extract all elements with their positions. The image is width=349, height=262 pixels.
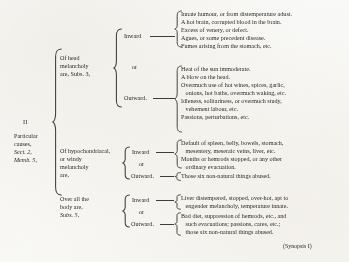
root-label-line-2: causes, xyxy=(14,141,32,149)
branch-body-inward-items-brace xyxy=(174,194,181,210)
branch-body-label-line-3: Subs. 5, xyxy=(60,212,79,220)
branch-body-outward-item-2: such evacuations; passions, cares, etc.; xyxy=(181,221,280,229)
branch-body-outward-item-3: those six non-natural things abused. xyxy=(181,229,273,237)
branch-body-outward-items-brace xyxy=(174,212,181,236)
branch-hypo-inward-item-2: mesentery, meseraic veins, liver, etc. xyxy=(181,148,275,156)
branch-head-inward-item-4: Agues, or some precedent disease. xyxy=(181,35,265,43)
source-note: (Synopsis I) xyxy=(283,243,312,249)
root-label-line-4: Memb. 5, xyxy=(14,157,37,165)
branch-body-brace xyxy=(122,194,130,228)
branch-head-inward-label: Inward xyxy=(124,33,141,41)
branch-head-label-line-1: Of head xyxy=(60,55,80,63)
branch-head-outward-connector xyxy=(153,98,175,99)
root-label-line-1: Particular xyxy=(14,133,38,141)
branch-head-brace xyxy=(113,28,122,108)
branch-head-outward-item-5: Idleness, solitariness, or overmuch stud… xyxy=(181,98,282,106)
branch-body-inward-label: Inward xyxy=(132,197,149,205)
branch-hypo-label-line-2: or windy xyxy=(60,156,82,164)
branch-hypo-inward-item-3: Months or hemrods stopped, or any other xyxy=(181,156,282,164)
branch-body-inward-item-1: Liver distempered, stopped, over-hot, ap… xyxy=(181,195,288,203)
branch-hypo-inward-label: Inward xyxy=(132,149,149,157)
branch-body-outward-connector xyxy=(160,224,174,225)
branch-hypo-outward-connector xyxy=(160,176,174,177)
branch-head-outward-item-7: Passions, perturbations, etc. xyxy=(181,114,249,122)
branch-hypo-inward-item-4: ordinary evacuation. xyxy=(181,164,236,172)
branch-hypo-outward-item-1: Those six non-natural things abused. xyxy=(181,173,271,181)
branch-head-outward-item-6: vehement labour, etc. xyxy=(181,106,238,114)
branch-hypo-label-line-4: are, xyxy=(60,172,69,180)
branch-head-inward-connector xyxy=(150,36,175,37)
branch-hypo-brace xyxy=(122,146,130,180)
branch-head-outward-item-1: Heat of the sun immoderate. xyxy=(181,66,250,74)
branch-head-outward-item-2: A blow on the head. xyxy=(181,74,230,82)
branch-body-label-line-2: body are, xyxy=(60,204,83,212)
branch-head-outward-item-4: onions, hot baths, overmuch waking, etc. xyxy=(181,90,286,98)
branch-head-label-line-3: are, Subs. 3, xyxy=(60,71,90,79)
root-label-line-3: Sect. 2, xyxy=(14,149,32,157)
branch-body-inward-connector xyxy=(156,200,174,201)
branch-body-label-line-1: Over all the xyxy=(60,196,89,204)
branch-head-label-line-2: melancholy xyxy=(60,63,89,71)
branch-head-inward-item-2: A hot brain, corrupted blood in the brai… xyxy=(181,19,281,27)
branch-head-inward-item-3: Excess of venery, or defect. xyxy=(181,27,249,35)
branch-hypo-or-label: or xyxy=(139,161,144,169)
branch-hypo-outward-label: Outward. xyxy=(131,173,154,181)
branch-body-outward-label: Outward. xyxy=(131,221,154,229)
branch-head-outward-item-3: Overmuch use of hot wines, spices, garli… xyxy=(181,82,285,90)
roman-numeral-heading: II xyxy=(23,118,28,125)
branch-head-or-label: or xyxy=(132,64,137,72)
branch-body-outward-item-1: Bad diet, suppression of hemrods, etc., … xyxy=(181,213,286,221)
branch-head-outward-label: Outward. xyxy=(124,95,147,103)
synopsis-diagram: II Particular causes, Sect. 2, Memb. 5, … xyxy=(0,0,349,262)
branch-head-inward-item-5: Fumes arising from the stomach, etc. xyxy=(181,43,272,51)
branch-hypo-outward-items-brace xyxy=(174,172,181,181)
branch-hypo-inward-item-1: Default of spleen, belly, bowels, stomac… xyxy=(181,140,283,148)
branch-body-inward-item-2: engender melancholy, temperature innate. xyxy=(181,203,288,211)
branch-hypo-label-line-1: Of hypochondriacal, xyxy=(60,148,110,156)
branch-head-inward-item-1: Innate humour, or from distemperature ad… xyxy=(181,11,292,19)
branch-hypo-inward-connector xyxy=(156,152,174,153)
branch-body-or-label: or xyxy=(139,209,144,217)
branch-hypo-label-line-3: melancholy xyxy=(60,164,89,172)
